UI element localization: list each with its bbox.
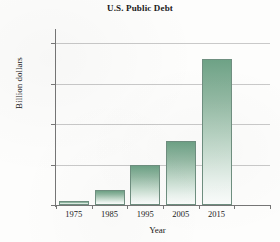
x-axis-tick-label: 2015 bbox=[195, 209, 239, 219]
bar-2005 bbox=[166, 141, 196, 205]
x-axis-label: Year bbox=[45, 225, 270, 235]
bar-1985 bbox=[95, 190, 125, 205]
gridline bbox=[56, 124, 270, 125]
gridline bbox=[56, 84, 270, 85]
gridline bbox=[56, 43, 270, 44]
bar-2015 bbox=[202, 59, 232, 205]
gridline bbox=[56, 165, 270, 166]
bar-1995 bbox=[130, 165, 160, 205]
x-axis-tick bbox=[199, 205, 200, 209]
x-axis-tick bbox=[234, 205, 235, 209]
chart-title: U.S. Public Debt bbox=[0, 3, 280, 13]
y-axis-label: Billion dollars bbox=[14, 28, 24, 138]
y-axis-tick bbox=[51, 124, 56, 125]
x-axis-tick bbox=[163, 205, 164, 209]
y-axis-tick bbox=[51, 165, 56, 166]
y-axis-tick bbox=[51, 84, 56, 85]
x-axis-tick bbox=[92, 205, 93, 209]
y-axis-tick bbox=[51, 43, 56, 44]
bar-1975 bbox=[59, 201, 89, 205]
plot-area bbox=[56, 31, 270, 205]
x-axis-tick bbox=[270, 205, 271, 209]
x-axis-tick bbox=[56, 205, 57, 209]
x-axis-tick bbox=[127, 205, 128, 209]
chart-container: U.S. Public Debt Billion dollars Year 05… bbox=[0, 0, 280, 242]
